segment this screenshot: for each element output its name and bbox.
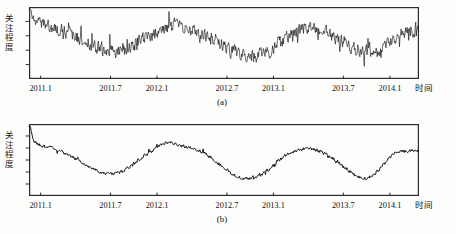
plot-area-a: [29, 7, 419, 79]
timeseries-svg-a: [25, 7, 419, 79]
x-tick-label: 2013.1: [262, 83, 285, 94]
y-axis-title-b: 关注程度: [2, 131, 16, 169]
x-tick-label: 2012.7: [215, 200, 238, 211]
x-tick-label: 2012.7: [215, 83, 238, 94]
x-axis-tick-labels-a: 2011.1 2011.7 2012.1 2012.7 2013.1 2013.…: [0, 83, 456, 95]
x-tick-label: 2012.1: [146, 83, 169, 94]
x-tick-label: 2011.1: [29, 83, 52, 94]
x-tick-label: 2012.1: [146, 200, 169, 211]
x-tick-label: 2013.1: [262, 200, 285, 211]
x-axis-title-b: 时间: [415, 200, 433, 211]
x-tick-label: 2011.1: [29, 200, 52, 211]
panel-caption-a: (a): [217, 97, 227, 108]
y-axis-title-a: 关注程度: [2, 14, 16, 52]
plot-area-b: [29, 124, 419, 196]
timeseries-svg-b: [25, 124, 419, 196]
x-axis-tick-labels-b: 2011.1 2011.7 2012.1 2012.7 2013.1 2013.…: [0, 200, 456, 212]
chart-panel-a: 关注程度 2011.1 2011.7 2012.1 2012.7 2013.1 …: [0, 0, 456, 117]
x-tick-label: 2011.7: [99, 200, 122, 211]
x-axis-title-a: 时间: [415, 83, 433, 94]
figure-container: 关注程度 2011.1 2011.7 2012.1 2012.7 2013.1 …: [0, 0, 456, 234]
chart-panel-b: 关注程度 2011.1 2011.7 2012.1 2012.7 2013.1 …: [0, 117, 456, 234]
x-tick-label: 2013.7: [332, 83, 355, 94]
x-tick-label: 2011.7: [99, 83, 122, 94]
x-tick-label: 2014.1: [378, 83, 401, 94]
x-tick-label: 2014.1: [378, 200, 401, 211]
panel-caption-b: (b): [217, 214, 228, 225]
x-tick-label: 2013.7: [332, 200, 355, 211]
